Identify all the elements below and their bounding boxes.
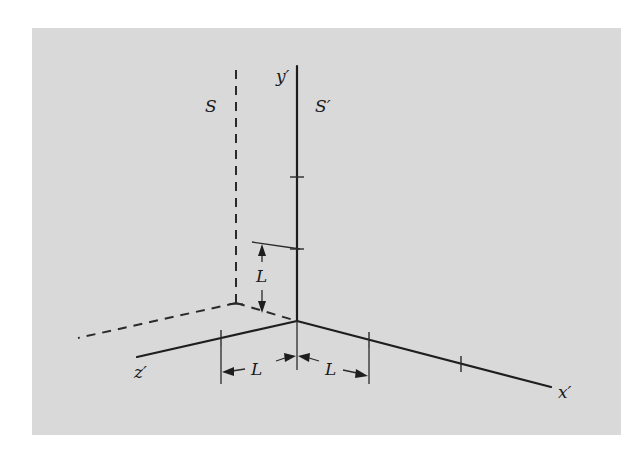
frame-s-axes xyxy=(78,70,297,338)
arrow-right-icon xyxy=(355,369,368,378)
frame-s-x-axis xyxy=(236,303,297,321)
frame-s-prime-axes xyxy=(137,66,551,387)
vertical-dimension-L: L xyxy=(252,242,300,313)
arrow-up-icon xyxy=(258,244,266,256)
x-spacing-L-label: L xyxy=(324,359,336,379)
dimension-line xyxy=(276,358,285,361)
frame-s-prime-label: S′ xyxy=(315,96,331,116)
frame-s-z-axis xyxy=(78,303,236,338)
dimension-line xyxy=(343,370,357,373)
x-prime-axis-label: x′ xyxy=(558,382,572,402)
arrow-left-icon xyxy=(222,367,234,376)
frame-s-label: S xyxy=(205,96,217,116)
dimension-line xyxy=(309,358,319,361)
z-prime-axis-label: z′ xyxy=(133,362,147,382)
arrow-left-icon xyxy=(298,353,310,362)
arrow-down-icon xyxy=(258,301,266,313)
z-prime-axis xyxy=(137,321,297,357)
z-spacing-L-label: L xyxy=(250,359,262,379)
y-prime-axis-label: y′ xyxy=(275,66,290,86)
horizontal-dimension-L: L L xyxy=(221,321,369,384)
vertical-L-label: L xyxy=(255,266,267,286)
arrow-right-icon xyxy=(284,353,296,362)
reference-frames-diagram: L L L S S′ y′ z′ x′ xyxy=(0,0,640,457)
dimension-extension-line xyxy=(252,242,300,249)
